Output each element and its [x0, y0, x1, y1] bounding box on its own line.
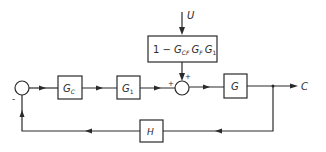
output-label-c: C	[301, 81, 308, 92]
gc-to-g1-arrow	[82, 86, 117, 91]
input-u-arrow	[179, 12, 185, 35]
feedback-path-to-sum	[20, 95, 141, 134]
sum-to-g-arrow	[189, 85, 224, 90]
minus-sign: -	[12, 94, 15, 104]
error-summing-junction	[15, 81, 29, 95]
feedback-label: H	[147, 127, 154, 137]
plus-sign-top: +	[185, 73, 191, 81]
input-label-u: U	[187, 10, 195, 21]
block-diagram: U 1 − GCFGFG1 GC G1 G H C - + +	[0, 0, 326, 152]
sum-to-gc-arrow	[29, 86, 58, 91]
plant-label: G	[231, 81, 239, 92]
plus-sign-left: +	[168, 80, 174, 88]
disturbance-summing-junction	[175, 81, 189, 95]
